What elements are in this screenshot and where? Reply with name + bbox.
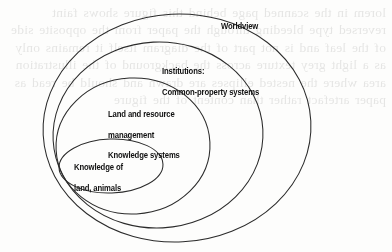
figure-container: lorem in the scanned page behind this fi… (0, 0, 392, 252)
label-institutions-line-1: Institutions: (162, 66, 204, 76)
label-worldview-line-1: Worldview (221, 21, 258, 31)
label-land-line-2: management (108, 130, 154, 140)
label-knowledge-of-land-animals: Knowledge of land, animals (66, 152, 123, 203)
label-land-line-1: Land and resource (108, 109, 175, 119)
nested-ellipse-diagram (0, 0, 392, 252)
label-knowledge-line-1: Knowledge of (74, 162, 123, 172)
label-institutions-line-2: Common-property systems (162, 87, 259, 97)
label-knowledge-line-2: land, animals (74, 183, 121, 193)
label-worldview: Worldview (213, 11, 258, 42)
